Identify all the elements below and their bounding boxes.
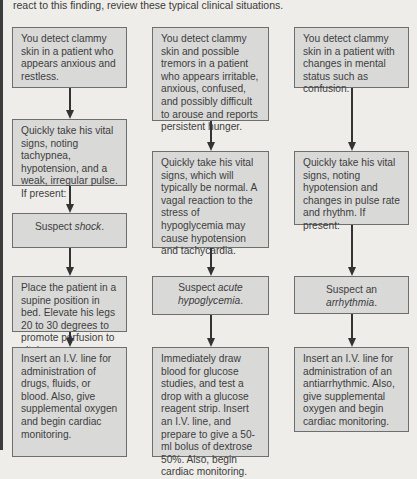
shock-iv-box: Insert an I.V. line for administration o… xyxy=(12,347,127,457)
arrhythmia-suspect-box: Suspect an arrhythmia. xyxy=(294,276,409,314)
suspect-suffix: . xyxy=(101,221,104,232)
box-text: Quickly take his vital signs, noting hyp… xyxy=(303,157,400,231)
suspect-diagnosis: arrhythmia xyxy=(326,297,374,308)
intro-text: react to this finding, review these typi… xyxy=(13,0,413,11)
arrhythmia-treatment-box: Insert an I.V. line for administration o… xyxy=(294,347,409,432)
hypoglycemia-treatment-box: Immediately draw blood for glucose studi… xyxy=(152,347,269,457)
arrhythmia-vitals-box: Quickly take his vital signs, noting hyp… xyxy=(294,151,409,225)
box-text: You detect clammy skin and possible trem… xyxy=(161,33,258,132)
arrow-down-icon xyxy=(66,338,74,347)
suspect-suffix: . xyxy=(240,295,243,306)
box-text: Quickly take his vital signs, which will… xyxy=(161,157,257,256)
connector-line xyxy=(351,225,353,268)
arrow-down-icon xyxy=(207,267,215,276)
shock-suspect-box: Suspect shock. xyxy=(12,213,127,248)
box-text: Immediately draw blood for glucose studi… xyxy=(161,353,255,477)
suspect-prefix: Suspect an xyxy=(326,284,377,295)
page-left-rule xyxy=(0,0,3,450)
box-text: You detect clammy skin in a patient who … xyxy=(21,33,116,82)
connector-line xyxy=(69,88,71,111)
connector-line xyxy=(210,121,212,143)
suspect-prefix: Suspect xyxy=(178,282,218,293)
box-text: Insert an I.V. line for administration o… xyxy=(303,353,395,427)
connector-line xyxy=(351,314,353,339)
connector-line xyxy=(210,248,212,268)
arrow-down-icon xyxy=(66,267,74,276)
connector-line xyxy=(351,88,353,143)
connector-line xyxy=(69,186,71,205)
box-text: Insert an I.V. line for administration o… xyxy=(21,353,117,440)
connector-line xyxy=(69,248,71,268)
shock-finding-box: You detect clammy skin in a patient who … xyxy=(12,27,127,88)
arrow-down-icon xyxy=(66,110,74,119)
arrow-down-icon xyxy=(348,142,356,151)
arrhythmia-finding-box: You detect clammy skin in a patient with… xyxy=(294,27,409,88)
arrow-down-icon xyxy=(207,142,215,151)
arrow-down-icon xyxy=(207,338,215,347)
suspect-prefix: Suspect xyxy=(35,221,75,232)
arrow-down-icon xyxy=(66,204,74,213)
hypoglycemia-finding-box: You detect clammy skin and possible trem… xyxy=(152,27,269,121)
shock-vitals-box: Quickly take his vital signs, noting tac… xyxy=(12,119,127,186)
arrow-down-icon xyxy=(348,267,356,276)
shock-position-box: Place the patient in a supine position i… xyxy=(12,276,127,332)
suspect-suffix: . xyxy=(374,297,377,308)
box-text: You detect clammy skin in a patient with… xyxy=(303,33,395,94)
hypoglycemia-suspect-box: Suspect acute hypoglycemia. xyxy=(152,276,269,315)
arrow-down-icon xyxy=(348,338,356,347)
connector-line xyxy=(210,315,212,339)
hypoglycemia-vitals-box: Quickly take his vital signs, which will… xyxy=(152,151,269,248)
suspect-diagnosis: shock xyxy=(75,221,102,232)
